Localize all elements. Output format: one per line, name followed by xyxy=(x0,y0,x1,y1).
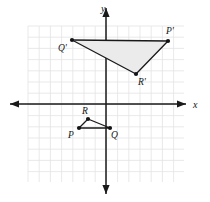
x-axis-label: x xyxy=(193,100,197,110)
vertex-label-r: R xyxy=(82,107,88,117)
vertex-label-q-prime: Q' xyxy=(58,44,67,54)
axis-arrowheads xyxy=(10,8,186,194)
x-axis-arrow-left xyxy=(10,100,19,107)
y-axis-label: y xyxy=(101,4,105,14)
vertex-dot-q-prime xyxy=(70,38,74,42)
vertex-dot-r-prime xyxy=(134,72,138,76)
x-axis-arrow-right xyxy=(177,100,186,107)
vertex-label-p: P xyxy=(68,131,74,141)
triangle-p-prime-q-prime-r-prime xyxy=(72,40,168,74)
vertex-label-r-prime: R' xyxy=(138,78,146,88)
geometry-figure: y x P Q R P' Q' R' xyxy=(0,0,210,202)
coordinate-plane xyxy=(0,0,210,202)
axis-lines xyxy=(10,8,186,194)
vertex-dot-r xyxy=(86,117,90,121)
vertex-label-q: Q xyxy=(111,131,118,141)
vertex-label-p-prime: P' xyxy=(166,27,174,37)
y-axis-arrow-down xyxy=(102,185,109,194)
vertex-dot-p xyxy=(77,126,81,130)
vertex-dot-p-prime xyxy=(166,39,170,43)
